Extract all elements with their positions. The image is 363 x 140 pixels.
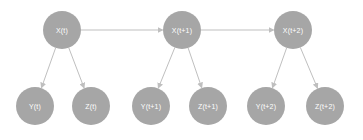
node-yt: Y(t) (16, 87, 54, 125)
node-zt2: Z(t+2) (306, 87, 344, 125)
edge-xt2-to-yt2 (273, 48, 287, 88)
edge-xt1-to-yt1 (158, 48, 174, 88)
node-label: Z(t) (85, 103, 97, 110)
edge-xt2-to-zt2 (300, 48, 317, 89)
edge-xt-to-zt (69, 48, 84, 88)
node-label: Z(t+2) (315, 103, 335, 110)
node-zt1: Z(t+1) (189, 87, 227, 125)
node-label: X(t+2) (283, 27, 303, 34)
node-label: Z(t+1) (198, 103, 218, 110)
edge-xt1-to-zt1 (188, 48, 202, 88)
node-label: X(t) (56, 27, 68, 34)
node-yt2: Y(t+2) (247, 87, 285, 125)
node-label: X(t+1) (172, 27, 192, 34)
node-zt: Z(t) (72, 87, 110, 125)
edge-xt-to-yt (42, 48, 56, 88)
node-label: Y(t) (29, 103, 41, 110)
bayesian-network-diagram: X(t)X(t+1)X(t+2)Y(t)Z(t)Y(t+1)Z(t+1)Y(t+… (0, 0, 363, 140)
node-xt2: X(t+2) (274, 11, 312, 49)
node-label: Y(t+1) (141, 103, 161, 110)
node-yt1: Y(t+1) (132, 87, 170, 125)
node-xt: X(t) (43, 11, 81, 49)
node-label: Y(t+2) (256, 103, 276, 110)
node-xt1: X(t+1) (163, 11, 201, 49)
